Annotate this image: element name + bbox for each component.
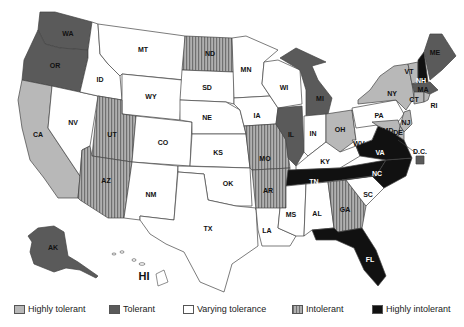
state-ak[interactable] xyxy=(28,226,98,278)
label-nh: NH xyxy=(416,77,426,84)
legend-item-tolerant: Tolerant xyxy=(109,304,155,314)
label-ca: CA xyxy=(33,131,43,138)
label-ia: IA xyxy=(254,112,261,119)
label-me: ME xyxy=(430,49,441,56)
legend-swatch-highly-tolerant xyxy=(14,305,25,314)
label-nd: ND xyxy=(205,50,215,57)
legend-swatch-intolerant xyxy=(292,305,303,314)
label-il: IL xyxy=(288,131,295,138)
legend-label: Highly tolerant xyxy=(28,304,86,314)
label-ma: MA xyxy=(418,86,429,93)
label-az: AZ xyxy=(101,177,111,184)
label-nj: NJ xyxy=(402,119,411,126)
label-hi: HI xyxy=(139,270,150,282)
label-vt: VT xyxy=(405,68,415,75)
label-id: ID xyxy=(97,76,104,83)
state-me[interactable] xyxy=(424,34,456,80)
state-ri[interactable] xyxy=(424,92,430,102)
label-ut: UT xyxy=(107,131,117,138)
label-ks: KS xyxy=(213,149,223,156)
label-ga: GA xyxy=(340,206,351,213)
label-wi: WI xyxy=(280,84,289,91)
label-ok: OK xyxy=(223,180,234,187)
label-or: OR xyxy=(50,62,61,69)
label-in: IN xyxy=(310,130,317,137)
label-al: AL xyxy=(312,210,322,217)
label-wy: WY xyxy=(145,93,157,100)
legend-item-highly-intolerant: Highly intolerant xyxy=(372,304,451,314)
label-wa: WA xyxy=(62,30,73,37)
label-oh: OH xyxy=(335,126,346,133)
label-va: VA xyxy=(375,149,384,156)
label-ar: AR xyxy=(263,187,273,194)
label-mo: MO xyxy=(259,155,271,162)
label-mi: MI xyxy=(316,95,324,102)
label-ny: NY xyxy=(387,90,397,97)
label-de: DE xyxy=(393,129,403,136)
legend-label: Intolerant xyxy=(306,304,344,314)
label-sc: SC xyxy=(363,191,373,198)
legend-swatch-varying-tolerance xyxy=(183,305,194,314)
legend: Highly tolerant Tolerant Varying toleran… xyxy=(0,295,464,327)
state-dc[interactable] xyxy=(416,156,424,164)
label-ak: AK xyxy=(48,244,58,251)
us-map: WA OR CA NV ID MT WY UT AZ CO NM ND SD N… xyxy=(0,0,464,295)
state-fl[interactable] xyxy=(312,228,386,286)
label-ct: CT xyxy=(409,96,419,103)
legend-item-varying-tolerance: Varying tolerance xyxy=(183,304,266,314)
label-mt: MT xyxy=(138,46,149,53)
label-nc: NC xyxy=(372,170,382,177)
label-la: LA xyxy=(262,227,271,234)
label-md: MD xyxy=(383,127,394,134)
label-wv: WV xyxy=(353,140,365,147)
label-nv: NV xyxy=(68,119,78,126)
label-ms: MS xyxy=(286,211,297,218)
label-fl: FL xyxy=(366,256,375,263)
label-co: CO xyxy=(158,139,169,146)
legend-label: Highly intolerant xyxy=(386,304,451,314)
label-tx: TX xyxy=(204,225,213,232)
label-ne: NE xyxy=(202,114,212,121)
label-tn: TN xyxy=(309,178,318,185)
legend-label: Tolerant xyxy=(123,304,155,314)
legend-swatch-highly-intolerant xyxy=(372,305,383,314)
legend-item-intolerant: Intolerant xyxy=(292,304,344,314)
label-ky: KY xyxy=(320,158,330,165)
legend-swatch-tolerant xyxy=(109,305,120,314)
label-mn: MN xyxy=(241,66,252,73)
legend-label: Varying tolerance xyxy=(197,304,266,314)
label-dc: D.C. xyxy=(413,148,427,155)
label-nm: NM xyxy=(146,191,157,198)
label-sd: SD xyxy=(202,84,212,91)
label-ri: RI xyxy=(431,102,438,109)
legend-item-highly-tolerant: Highly tolerant xyxy=(14,304,86,314)
label-pa: PA xyxy=(374,112,383,119)
